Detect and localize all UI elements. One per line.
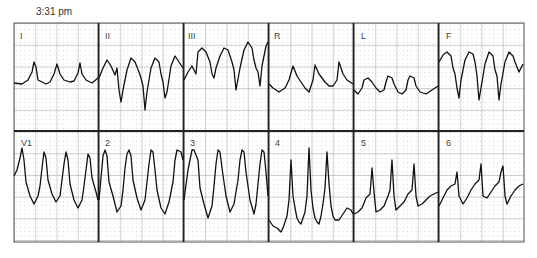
- lead-label-II: II: [105, 31, 110, 41]
- lead-label-V1: V1: [21, 138, 32, 148]
- lead-label-V6: 6: [446, 138, 451, 148]
- lead-label-III: III: [188, 31, 196, 41]
- lead-label-V2: 2: [105, 138, 110, 148]
- lead-label-V5: 5: [361, 138, 366, 148]
- lead-label-aVF: F: [446, 31, 452, 41]
- lead-label-I: I: [20, 31, 23, 41]
- lead-label-V3: 3: [190, 138, 195, 148]
- lead-label-aVL: L: [361, 31, 366, 41]
- lead-label-V4: 4: [275, 138, 280, 148]
- lead-label-aVR: R: [274, 31, 281, 41]
- ecg-strip: I II III R L F V1 2 3 4 5 6: [0, 0, 537, 258]
